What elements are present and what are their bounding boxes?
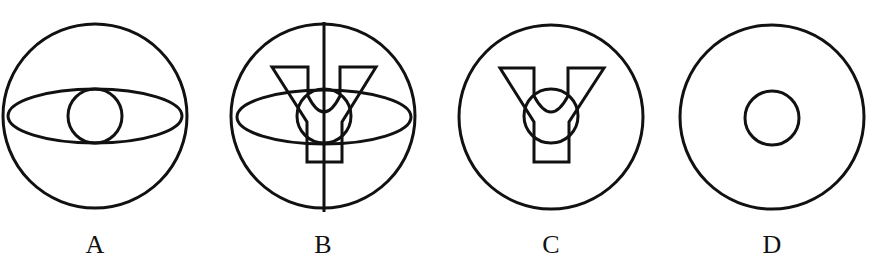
outer-circle <box>3 24 187 208</box>
inner-circle <box>68 89 122 143</box>
inner-circle <box>745 91 799 145</box>
outer-circle <box>680 25 864 209</box>
figure-c <box>459 25 643 209</box>
label-a: A <box>75 230 115 260</box>
ellipse <box>8 89 182 143</box>
y-shape <box>500 68 604 162</box>
label-c: C <box>531 230 571 260</box>
figure-a <box>3 24 187 208</box>
figure-d <box>680 25 864 209</box>
figure-b <box>231 22 415 212</box>
figures-canvas <box>0 0 877 264</box>
outer-circle <box>459 25 643 209</box>
label-d: D <box>752 230 792 260</box>
label-b: B <box>303 230 343 260</box>
